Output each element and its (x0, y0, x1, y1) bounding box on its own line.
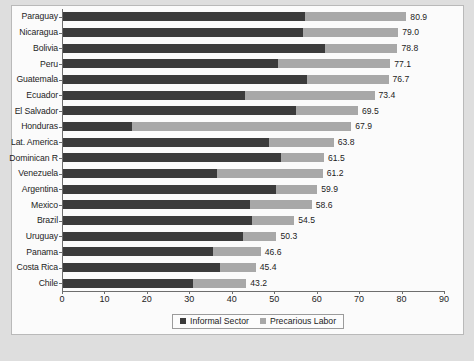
bar-segment-precarious-labor[interactable] (213, 247, 261, 256)
y-axis-label: Peru (0, 56, 62, 72)
bar-segment-precarious-labor[interactable] (243, 232, 277, 241)
bar-row[interactable]: 76.7 (63, 72, 454, 88)
x-axis-tick-label: 10 (99, 295, 109, 304)
bar-segment-informal-sector[interactable] (63, 75, 307, 84)
bar-segment-precarious-labor[interactable] (132, 122, 351, 131)
bar-segment-precarious-labor[interactable] (303, 28, 398, 37)
y-axis-tick-mark (59, 252, 62, 253)
bar-segment-informal-sector[interactable] (63, 279, 193, 288)
bar-total-value-label: 61.5 (328, 154, 345, 163)
bar-segment-precarious-labor[interactable] (250, 200, 312, 209)
x-axis-tick-label: 20 (142, 295, 152, 304)
y-axis-label: Venezuela (0, 166, 62, 182)
stacked-bar[interactable] (63, 75, 389, 84)
bar-row[interactable]: 50.3 (63, 228, 454, 244)
bar-row[interactable]: 73.4 (63, 87, 454, 103)
stacked-bar[interactable] (63, 12, 406, 21)
bar-row[interactable]: 79.0 (63, 25, 454, 41)
x-axis-tick-label: 80 (397, 295, 407, 304)
bar-row[interactable]: 61.2 (63, 166, 454, 182)
bar-row[interactable]: 54.5 (63, 213, 454, 229)
stacked-bar[interactable] (63, 138, 334, 147)
y-axis-tick-mark (59, 80, 62, 81)
bar-segment-precarious-labor[interactable] (245, 91, 374, 100)
bar-segment-precarious-labor[interactable] (220, 263, 255, 272)
y-axis-label: Dominican R (0, 150, 62, 166)
bar-segment-informal-sector[interactable] (63, 216, 252, 225)
y-axis-label: Brazil (0, 213, 62, 229)
bar-segment-precarious-labor[interactable] (269, 138, 334, 147)
stacked-bar[interactable] (63, 28, 398, 37)
bar-row[interactable]: 59.9 (63, 181, 454, 197)
y-axis-tick-mark (59, 174, 62, 175)
chart-figure: ParaguayNicaraguaBoliviaPeruGuatemalaEcu… (0, 0, 474, 361)
bar-segment-informal-sector[interactable] (63, 153, 281, 162)
bar-segment-informal-sector[interactable] (63, 138, 269, 147)
stacked-bar[interactable] (63, 106, 358, 115)
bar-row[interactable]: 61.5 (63, 150, 454, 166)
bar-segment-informal-sector[interactable] (63, 91, 245, 100)
bar-segment-informal-sector[interactable] (63, 44, 325, 53)
y-axis-label: Nicaragua (0, 25, 62, 41)
y-axis-label: Ecuador (0, 87, 62, 103)
stacked-bar[interactable] (63, 169, 323, 178)
y-axis-label: Lat. America (0, 134, 62, 150)
bar-total-value-label: 61.2 (327, 169, 344, 178)
bar-segment-informal-sector[interactable] (63, 232, 243, 241)
bar-row[interactable]: 69.5 (63, 103, 454, 119)
y-axis-tick-mark (59, 127, 62, 128)
bar-segment-informal-sector[interactable] (63, 28, 303, 37)
bar-segment-precarious-labor[interactable] (276, 185, 317, 194)
stacked-bar[interactable] (63, 44, 397, 53)
x-axis-ticks: 0102030405060708090 (62, 291, 444, 307)
bar-segment-informal-sector[interactable] (63, 247, 213, 256)
bar-segment-informal-sector[interactable] (63, 12, 305, 21)
bar-segment-precarious-labor[interactable] (325, 44, 398, 53)
bar-row[interactable]: 58.6 (63, 197, 454, 213)
y-axis-label: Panama (0, 244, 62, 260)
bar-segment-informal-sector[interactable] (63, 185, 276, 194)
y-axis-tick-mark (59, 189, 62, 190)
bar-row[interactable]: 80.9 (63, 9, 454, 25)
stacked-bar[interactable] (63, 59, 390, 68)
stacked-bar[interactable] (63, 247, 261, 256)
y-axis-tick-mark (59, 33, 62, 34)
bar-segment-precarious-labor[interactable] (193, 279, 246, 288)
stacked-bar[interactable] (63, 200, 312, 209)
stacked-bar[interactable] (63, 263, 256, 272)
bar-row[interactable]: 63.8 (63, 134, 454, 150)
stacked-bar[interactable] (63, 122, 351, 131)
legend-item[interactable]: Informal Sector (180, 317, 249, 326)
bar-total-value-label: 43.2 (250, 279, 267, 288)
bar-segment-precarious-labor[interactable] (305, 12, 406, 21)
y-axis-tick-mark (59, 268, 62, 269)
bar-segment-precarious-labor[interactable] (307, 75, 388, 84)
stacked-bar[interactable] (63, 216, 294, 225)
stacked-bar[interactable] (63, 153, 324, 162)
bar-segment-precarious-labor[interactable] (217, 169, 322, 178)
stacked-bar[interactable] (63, 91, 375, 100)
bar-row[interactable]: 45.4 (63, 260, 454, 276)
x-axis-tick-label: 30 (184, 295, 194, 304)
bar-segment-informal-sector[interactable] (63, 263, 220, 272)
stacked-bar[interactable] (63, 185, 317, 194)
bar-segment-informal-sector[interactable] (63, 122, 132, 131)
bar-segment-informal-sector[interactable] (63, 200, 250, 209)
bar-row[interactable]: 43.2 (63, 275, 454, 291)
bar-segment-informal-sector[interactable] (63, 106, 296, 115)
legend-item[interactable]: Precarious Labor (260, 317, 336, 326)
bar-row[interactable]: 78.8 (63, 40, 454, 56)
bar-segment-informal-sector[interactable] (63, 59, 278, 68)
x-axis-tick-label: 70 (354, 295, 364, 304)
bar-segment-precarious-labor[interactable] (296, 106, 358, 115)
bar-segment-precarious-labor[interactable] (281, 153, 324, 162)
bar-row[interactable]: 46.6 (63, 244, 454, 260)
bar-segment-precarious-labor[interactable] (278, 59, 390, 68)
stacked-bar[interactable] (63, 232, 276, 241)
stacked-bar[interactable] (63, 279, 246, 288)
bar-row[interactable]: 77.1 (63, 56, 454, 72)
y-axis-tick-mark (59, 158, 62, 159)
bar-segment-informal-sector[interactable] (63, 169, 217, 178)
bar-row[interactable]: 67.9 (63, 119, 454, 135)
bar-segment-precarious-labor[interactable] (252, 216, 294, 225)
